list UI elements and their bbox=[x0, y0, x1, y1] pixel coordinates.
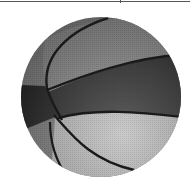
basketball-image bbox=[0, 0, 190, 187]
ball-shading bbox=[20, 15, 185, 180]
